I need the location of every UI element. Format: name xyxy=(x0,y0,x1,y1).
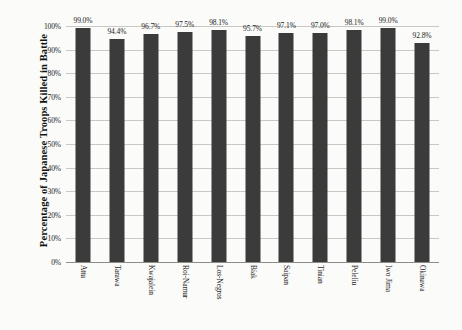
bar-chart: Percentage of Japanese Troops Killed in … xyxy=(0,0,462,330)
y-axis-tick-label: 70% xyxy=(48,92,61,101)
bar-group: 97.0%Tinian xyxy=(305,26,335,262)
bar-value-label: 99.0% xyxy=(379,16,398,25)
y-axis-tick-label: 20% xyxy=(48,210,61,219)
x-axis-category-label: Saipan xyxy=(282,265,291,285)
bar[interactable] xyxy=(143,34,158,262)
x-axis-category-label: Kwajalein xyxy=(146,265,155,295)
bar-series: 99.0%Attu94.4%Tarawa96.7%Kwajalein97.5%R… xyxy=(66,26,439,262)
bar[interactable] xyxy=(109,39,124,262)
y-axis-tick-label: 0% xyxy=(51,258,61,267)
bar-group: 97.5%Roi-Namur xyxy=(170,26,200,262)
bar-group: 94.4%Tarawa xyxy=(102,26,132,262)
bar-value-label: 92.8% xyxy=(413,31,432,40)
y-axis-tick-label: 80% xyxy=(48,69,61,78)
bar-value-label: 97.5% xyxy=(175,20,194,29)
x-axis-category-label: Biak xyxy=(248,265,257,279)
x-axis-category-label: Roi-Namur xyxy=(180,265,189,298)
bar[interactable] xyxy=(211,30,226,262)
bar[interactable] xyxy=(245,36,260,262)
bar[interactable] xyxy=(177,32,192,262)
bar-group: 99.0%Attu xyxy=(68,26,98,262)
y-axis-tick-label: 50% xyxy=(48,140,61,149)
y-axis-tick-label: 10% xyxy=(48,234,61,243)
bar-value-label: 97.1% xyxy=(277,21,296,30)
bar-value-label: 98.1% xyxy=(345,18,364,27)
bar-group: 98.1%Los-Negros xyxy=(204,26,234,262)
x-axis-category-label: Peleliu xyxy=(350,265,359,285)
y-axis-tick-label: 60% xyxy=(48,116,61,125)
bar[interactable] xyxy=(75,28,90,262)
bar[interactable] xyxy=(313,33,328,262)
bar-value-label: 97.0% xyxy=(311,21,330,30)
x-axis-category-label: Okinawa xyxy=(418,265,427,291)
y-axis-tick-label: 30% xyxy=(48,187,61,196)
bar-value-label: 98.1% xyxy=(209,18,228,27)
gridline xyxy=(66,262,439,263)
bar[interactable] xyxy=(381,28,396,262)
y-axis-tick-label: 100% xyxy=(44,22,61,31)
x-axis-category-label: Los-Negros xyxy=(214,265,223,299)
x-axis-category-label: Tarawa xyxy=(112,265,121,286)
bar-group: 98.1%Peleliu xyxy=(339,26,369,262)
y-axis-tick-label: 90% xyxy=(48,45,61,54)
x-axis-category-label: Attu xyxy=(78,265,87,278)
bar-value-label: 96.7% xyxy=(141,22,160,31)
bar-group: 97.1%Saipan xyxy=(271,26,301,262)
bar[interactable] xyxy=(279,33,294,262)
x-axis-category-label: Iwo Jima xyxy=(384,265,393,292)
bar[interactable] xyxy=(415,43,430,262)
plot-area: 0%10%20%30%40%50%60%70%80%90%100% 99.0%A… xyxy=(66,26,439,262)
bar-value-label: 95.7% xyxy=(243,24,262,33)
bar-group: 99.0%Iwo Jima xyxy=(373,26,403,262)
bar-group: 96.7%Kwajalein xyxy=(136,26,166,262)
bar-value-label: 94.4% xyxy=(107,27,126,36)
y-axis-tick-label: 40% xyxy=(48,163,61,172)
bar-group: 95.7%Biak xyxy=(238,26,268,262)
x-axis-category-label: Tinian xyxy=(316,265,325,284)
bar-value-label: 99.0% xyxy=(74,16,93,25)
bar[interactable] xyxy=(347,30,362,262)
bar-group: 92.8%Okinawa xyxy=(407,26,437,262)
